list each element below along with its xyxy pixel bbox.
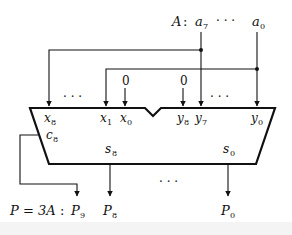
- input-label: A : a 7 · · · a 0: [171, 14, 265, 31]
- x-input-ellipsis: · · ·: [63, 90, 82, 104]
- svg-text:8: 8: [112, 149, 117, 158]
- svg-text:9: 9: [80, 211, 85, 220]
- svg-text:7: 7: [202, 118, 207, 127]
- output-p8: P: [102, 203, 112, 218]
- input-ellipsis: · · ·: [216, 14, 235, 28]
- sum-s8-label: s: [105, 142, 111, 156]
- svg-text:y: y: [194, 111, 202, 125]
- svg-text:x: x: [120, 111, 127, 125]
- svg-text:y: y: [250, 111, 258, 125]
- input-msb-label: a: [195, 14, 203, 29]
- adder-body: [30, 108, 275, 164]
- adder-y-labels: y 8 y 7 y 0: [176, 111, 263, 127]
- svg-text:0: 0: [258, 118, 263, 127]
- svg-text:8: 8: [53, 135, 58, 144]
- sum-s0-label: s: [223, 142, 229, 156]
- adder-x-labels: x 8 x 1 x 0: [44, 111, 132, 127]
- svg-text:0: 0: [122, 74, 130, 88]
- adder-diagram: A : a 7 · · · a 0 0 0 · · · · · · x 8 x …: [0, 0, 292, 235]
- svg-text:x: x: [44, 111, 51, 125]
- input-msb-subscript: 7: [203, 22, 208, 31]
- svg-text:0: 0: [230, 211, 235, 220]
- output-expression: P = 3A: [9, 203, 56, 218]
- output-p0: P: [220, 203, 230, 218]
- svg-text:0: 0: [230, 149, 235, 158]
- svg-text:y: y: [176, 111, 184, 125]
- constant-zero-x0: 0: [122, 74, 130, 106]
- constant-zero-y8: 0: [180, 74, 188, 106]
- output-separator: :: [60, 203, 64, 218]
- svg-text:1: 1: [107, 118, 112, 127]
- wire-a0: [106, 32, 257, 106]
- y-input-ellipsis: · · ·: [210, 90, 229, 104]
- input-name-label: A: [171, 14, 181, 29]
- input-lsb-label: a: [252, 14, 260, 29]
- wire-c8-to-p9: [20, 135, 77, 196]
- adder-output-labels: c 8 s 8 s 0: [46, 128, 235, 158]
- junction-dot-a0: [255, 67, 259, 71]
- svg-text:8: 8: [51, 118, 56, 127]
- svg-text:0: 0: [180, 74, 188, 88]
- junction-dot-a7: [199, 48, 203, 52]
- input-separator: :: [183, 14, 187, 29]
- svg-text:8: 8: [112, 211, 117, 220]
- svg-text:8: 8: [184, 118, 189, 127]
- svg-text:0: 0: [127, 118, 132, 127]
- output-label: P = 3A : P 9 P 8 P 0: [9, 203, 235, 220]
- svg-text:x: x: [100, 111, 107, 125]
- output-ellipsis: · · ·: [159, 175, 178, 189]
- output-p9: P: [70, 203, 80, 218]
- input-lsb-subscript: 0: [260, 22, 265, 31]
- carry-out-label: c: [46, 128, 53, 142]
